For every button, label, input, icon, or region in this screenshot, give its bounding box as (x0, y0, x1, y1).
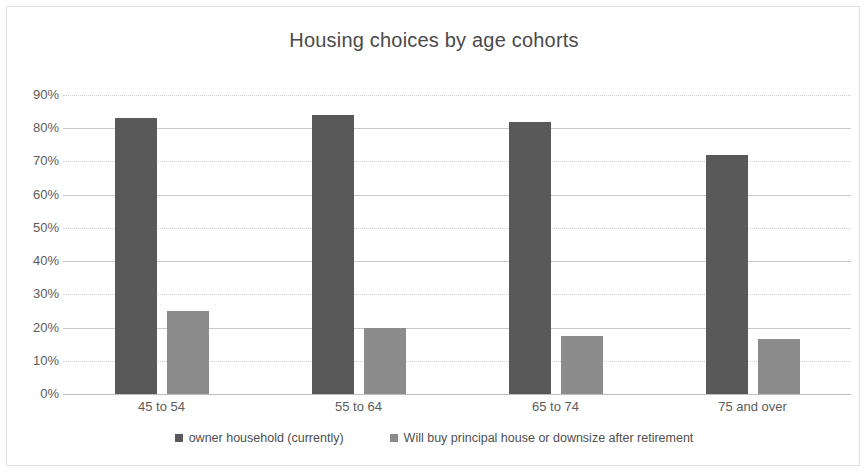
y-tick-label: 90% (15, 87, 59, 102)
x-tick-label: 65 to 74 (457, 399, 654, 414)
y-tick-label: 30% (15, 286, 59, 301)
gridline (63, 128, 851, 130)
legend-swatch-icon (175, 434, 183, 442)
y-tick-label: 60% (15, 187, 59, 202)
bar (312, 115, 354, 394)
plot-area (63, 95, 851, 394)
chart-legend: owner household (currently)Will buy prin… (7, 431, 861, 445)
chart-frame: Housing choices by age cohorts 0%10%20%3… (6, 6, 860, 466)
legend-label: owner household (currently) (189, 431, 344, 445)
x-axis-line (63, 394, 851, 395)
y-tick-label: 20% (15, 320, 59, 335)
x-tick-label: 75 and over (654, 399, 851, 414)
bar (509, 122, 551, 394)
x-axis-tick-labels: 45 to 5455 to 6465 to 7475 and over (63, 399, 851, 423)
y-tick-label: 50% (15, 220, 59, 235)
bar (364, 328, 406, 394)
y-tick-label: 0% (15, 386, 59, 401)
legend-swatch-icon (390, 434, 398, 442)
y-tick-label: 80% (15, 120, 59, 135)
bar (115, 118, 157, 394)
x-tick-label: 55 to 64 (260, 399, 457, 414)
y-axis-tick-labels: 0%10%20%30%40%50%60%70%80%90% (9, 95, 59, 394)
y-tick-label: 70% (15, 153, 59, 168)
y-tick-label: 10% (15, 353, 59, 368)
gridline (63, 95, 851, 97)
chart-title: Housing choices by age cohorts (7, 29, 861, 52)
bar (706, 155, 748, 394)
legend-item[interactable]: owner household (currently) (175, 431, 344, 445)
bar (561, 336, 603, 394)
x-tick-label: 45 to 54 (63, 399, 260, 414)
legend-label: Will buy principal house or downsize aft… (404, 431, 694, 445)
y-tick-label: 40% (15, 253, 59, 268)
bar (167, 311, 209, 394)
legend-item[interactable]: Will buy principal house or downsize aft… (390, 431, 694, 445)
bar (758, 339, 800, 394)
